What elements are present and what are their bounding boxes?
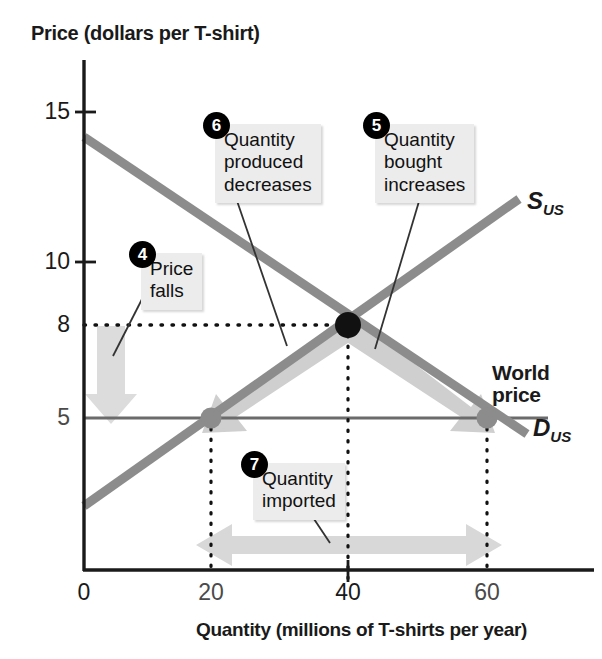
chart-figure: Price (dollars per T-shirt) Quantity (mi… <box>0 0 602 659</box>
x-tick-label-20: 20 <box>186 579 236 606</box>
supply-curve-label: SUS <box>527 187 564 218</box>
domestic-production-point <box>201 408 222 429</box>
supply-curve-label-sub: US <box>543 201 564 218</box>
demand-curve-label-text: D <box>533 414 550 441</box>
x-axis-title: Quantity (millions of T-shirts per year) <box>196 619 527 641</box>
callout-4-badge: 4 <box>129 241 156 268</box>
y-tick-label-5: 5 <box>26 404 70 431</box>
callout-7-box: Quantity imported <box>253 463 345 520</box>
callout-5-badge: 5 <box>363 112 390 139</box>
callout-6-line1: Quantity <box>224 129 312 151</box>
world-price-label-line1: World <box>492 362 550 384</box>
callout-7-badge: 7 <box>241 451 268 478</box>
callout-6-box: Quantity produced decreases <box>215 124 321 203</box>
callout-5-line2: bought <box>384 151 465 173</box>
callout-5-line3: increases <box>384 174 465 196</box>
domestic-purchase-point <box>477 408 498 429</box>
callout-4-line1: Price <box>150 258 193 280</box>
x-tick-label-40: 40 <box>323 579 373 606</box>
supply-curve-label-text: S <box>527 187 543 214</box>
callout-4-line2: falls <box>150 280 193 302</box>
x-tick-label-0: 0 <box>59 579 109 606</box>
callout-5-box: Quantity bought increases <box>375 124 474 203</box>
y-tick-label-8: 8 <box>26 311 70 338</box>
callout-7-line2: imported <box>262 490 336 512</box>
callout-6-badge: 6 <box>203 112 230 139</box>
callout-6-line3: decreases <box>224 174 312 196</box>
plot-layer <box>0 0 602 659</box>
world-price-label: World price <box>492 362 550 407</box>
y-axis-title: Price (dollars per T-shirt) <box>31 22 260 45</box>
demand-curve-label: DUS <box>533 414 571 445</box>
no-trade-equilibrium-point <box>335 312 361 338</box>
y-tick-label-15: 15 <box>26 98 70 125</box>
callout-7-line1: Quantity <box>262 468 336 490</box>
callout-6-line2: produced <box>224 151 312 173</box>
y-tick-label-10: 10 <box>26 248 70 275</box>
world-price-label-line2: price <box>492 384 550 406</box>
demand-curve-label-sub: US <box>550 428 571 445</box>
x-tick-label-60: 60 <box>462 579 512 606</box>
callout-5-line1: Quantity <box>384 129 465 151</box>
